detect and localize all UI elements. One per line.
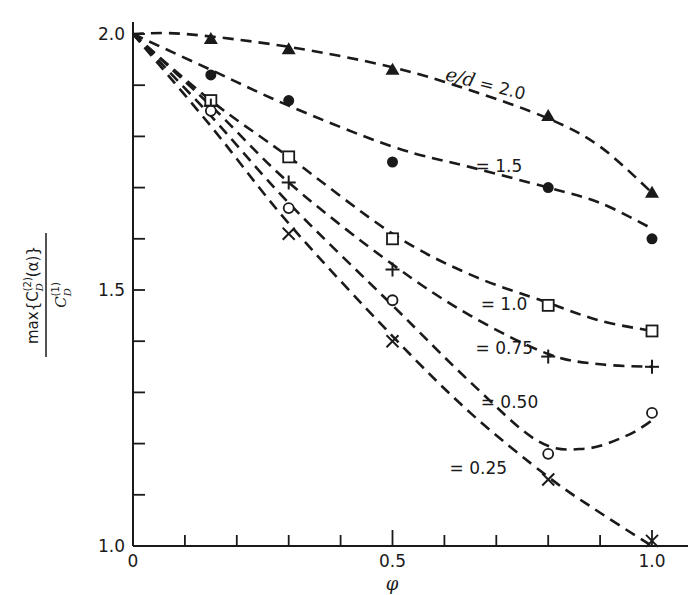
y-axis-label-numerator: max{C(2)D(α)}: [22, 246, 45, 344]
filled-triangle-marker: [541, 109, 555, 121]
x-tick-label: 1.0: [638, 551, 665, 571]
x-axis-label: φ: [386, 573, 399, 594]
open-circle-marker: [284, 203, 294, 213]
filled-triangle-marker: [386, 63, 400, 75]
chart: 1.01.52.000.51.0 e/d = 2.0= 1.5= 1.0= 0.…: [0, 0, 698, 595]
open-circle-marker: [647, 408, 657, 418]
open-square-marker: [283, 151, 294, 162]
plus-marker: [541, 350, 555, 364]
open-square-marker: [543, 300, 554, 311]
y-axis-label-denominator: C(1)D: [50, 282, 73, 308]
curve-label: = 1.5: [476, 156, 523, 176]
plot-area: 1.01.52.000.51.0 e/d = 2.0= 1.5= 1.0= 0.…: [0, 0, 698, 595]
plus-marker: [386, 263, 400, 277]
y-tick-label: 2.0: [98, 24, 125, 44]
open-square-marker: [387, 233, 398, 244]
filled-circle-marker: [205, 69, 216, 80]
curve-label: e/d = 2.0: [443, 63, 528, 104]
y-axis-label: max{C(2)D(α)} C(1)D: [18, 230, 74, 360]
curve-label: = 0.50: [481, 392, 538, 412]
filled-triangle-marker: [204, 32, 218, 44]
curve-label: = 0.25: [450, 458, 508, 478]
plus-marker: [645, 360, 659, 374]
filled-triangle-marker: [282, 42, 296, 54]
open-circle-marker: [543, 449, 553, 459]
curve-e-d-0-75: [133, 34, 652, 367]
curve-label: = 0.75: [476, 338, 534, 358]
x-tick-label: 0.5: [379, 551, 406, 571]
curve-label: = 1.0: [481, 294, 528, 314]
y-tick-label: 1.5: [98, 280, 125, 300]
open-square-marker: [647, 325, 658, 336]
x-cross-marker: [283, 228, 295, 240]
x-tick-label: 0: [128, 551, 139, 571]
filled-circle-marker: [387, 157, 398, 168]
open-circle-marker: [388, 295, 398, 305]
filled-circle-marker: [647, 233, 658, 244]
filled-circle-marker: [283, 95, 294, 106]
data-markers: [204, 32, 659, 547]
filled-circle-marker: [543, 182, 554, 193]
open-circle-marker: [206, 106, 216, 116]
y-tick-label: 1.0: [98, 536, 125, 556]
curve-labels: e/d = 2.0= 1.5= 1.0= 0.75= 0.50= 0.25: [443, 63, 538, 479]
